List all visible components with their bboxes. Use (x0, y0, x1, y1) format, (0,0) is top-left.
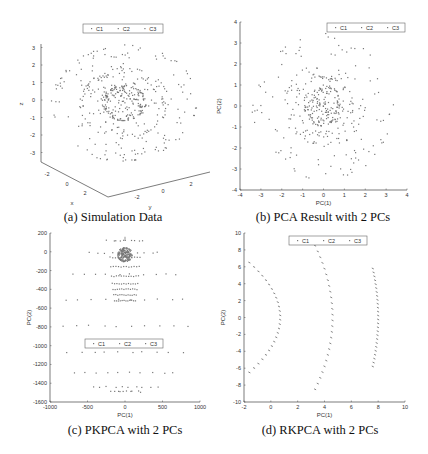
y-tick-label: 3 (234, 40, 237, 46)
legend-label: C1 (96, 26, 103, 32)
x-tick-label: 0 (65, 181, 68, 187)
y-tick-label: -4 (232, 187, 237, 193)
x-axis-label: PC(1) (317, 412, 333, 418)
x-tick-label: -4 (238, 192, 243, 198)
y-tick-label: 0 (238, 315, 241, 321)
legend-marker-icon (144, 28, 145, 29)
y-tick-label: -400 (36, 286, 47, 292)
z-tick-label: 3 (32, 45, 35, 51)
figure-canvas: 3210-1-2-3z-202x-202yC1C2C3(a) Simulatio… (0, 0, 428, 454)
figure-caption: (d) RKPCA with 2 PCs (262, 423, 379, 437)
x-tick-label: -3 (258, 192, 263, 198)
y-tick-label: -10 (233, 399, 241, 405)
x-tick-label: -1 (300, 192, 305, 198)
x-tick-label: 4 (323, 404, 326, 410)
legend-marker-icon (91, 28, 92, 29)
x-tick-label: 0 (322, 192, 325, 198)
y-tick-label: -6 (236, 365, 241, 371)
z-tick-label: -2 (30, 132, 35, 138)
y-tick-label: 200 (38, 230, 47, 236)
y-tick-label: 2 (189, 181, 192, 187)
y-tick-label: 10 (235, 230, 241, 236)
x-axis (41, 162, 108, 197)
z-tick-label: -3 (30, 150, 35, 156)
y-axis-label: PC(2) (220, 310, 226, 326)
x-tick-label: -2 (242, 404, 247, 410)
legend-marker-icon (145, 343, 146, 344)
x-tick-label: -2 (279, 192, 284, 198)
y-tick-label: -8 (236, 382, 241, 388)
legend-label: C1 (340, 25, 347, 31)
y-axis (108, 172, 210, 197)
legend: C1C2C3 (83, 24, 163, 33)
legend: C1C2C3 (85, 339, 163, 348)
y-tick-label: -2 (232, 145, 237, 151)
legend-label: C2 (124, 341, 131, 347)
legend-marker-icon (119, 343, 120, 344)
legend-marker-icon (297, 240, 298, 241)
x-tick-label: 2 (83, 190, 86, 196)
z-tick-label: 2 (32, 62, 35, 68)
figure-caption: (a) Simulation Data (64, 210, 163, 224)
legend-marker-icon (118, 28, 119, 29)
y-tick-label: 0 (44, 249, 47, 255)
legend-label: C3 (392, 25, 399, 31)
chart-a: 3210-1-2-3z-202x-202yC1C2C3(a) Simulatio… (18, 24, 210, 224)
legend-marker-icon (349, 240, 350, 241)
legend-marker-icon (387, 27, 388, 28)
legend-label: C2 (328, 238, 335, 244)
y-tick-label: -1400 (33, 380, 47, 386)
legend: C1C2C3 (327, 23, 405, 32)
z-axis-label: z (18, 103, 24, 106)
x-tick-label: 500 (158, 404, 167, 410)
legend-label: C3 (354, 238, 361, 244)
y-tick-label: -1000 (33, 343, 47, 349)
x-tick-label: 2 (296, 404, 299, 410)
x-tick-label: 4 (405, 192, 408, 198)
y-tick-label: 0 (161, 188, 164, 194)
y-tick-label: -1200 (33, 361, 47, 367)
x-tick-label: 0 (123, 404, 126, 410)
y-tick-label: 6 (238, 264, 241, 270)
legend-marker-icon (93, 343, 94, 344)
scatter-points (51, 44, 197, 161)
z-tick-label: 1 (32, 80, 35, 86)
y-tick-label: 2 (234, 61, 237, 67)
x-tick-label: 6 (350, 404, 353, 410)
scatter-points (248, 245, 379, 390)
y-tick-label: -2 (135, 194, 140, 200)
y-tick-label: 0 (234, 103, 237, 109)
legend-marker-icon (335, 27, 336, 28)
scatter-points (252, 33, 394, 179)
y-tick-label: -1600 (33, 399, 47, 405)
y-tick-label: -3 (232, 166, 237, 172)
y-tick-label: -1 (232, 124, 237, 130)
y-tick-label: 2 (238, 298, 241, 304)
z-tick-label: -1 (30, 115, 35, 121)
y-tick-label: -200 (36, 268, 47, 274)
x-axis-label: PC(1) (117, 412, 133, 418)
legend-marker-icon (361, 27, 362, 28)
x-axis-label: PC(1) (316, 200, 332, 206)
x-tick-label: -2 (45, 171, 50, 177)
legend-label: C1 (302, 238, 309, 244)
y-axis-label: PC(2) (26, 310, 32, 326)
y-tick-label: -2 (236, 331, 241, 337)
chart-b: -4-3-2-10123443210-1-2-3-4PC(1)PC(2)C1C2… (216, 19, 409, 224)
y-tick-label: -800 (36, 324, 47, 330)
figure-caption: (c) PKPCA with 2 PCs (68, 423, 183, 437)
scatter-points (62, 237, 188, 393)
x-tick-label: 2 (364, 192, 367, 198)
x-tick-label: 3 (385, 192, 388, 198)
chart-d: -202468101086420-2-4-6-8-10PC(1)PC(2)C1C… (220, 230, 408, 437)
x-tick-label: 0 (269, 404, 272, 410)
x-axis-label: x (71, 200, 74, 206)
x-tick-label: 1000 (194, 404, 206, 410)
y-tick-label: 4 (234, 19, 237, 25)
y-axis-label: PC(2) (216, 98, 222, 114)
z-tick-label: 0 (32, 97, 35, 103)
legend-marker-icon (323, 240, 324, 241)
chart-c: -1000-500050010002000-200-400-600-800-10… (26, 230, 206, 437)
y-tick-label: -600 (36, 305, 47, 311)
legend-label: C2 (366, 25, 373, 31)
